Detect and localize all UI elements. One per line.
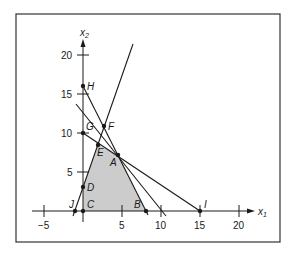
x-tick-label: 10 (155, 220, 167, 231)
label-f: F (108, 121, 115, 132)
point-i (198, 209, 202, 213)
point-b (144, 209, 148, 213)
figure-frame (16, 14, 280, 242)
label-g: G (86, 121, 94, 132)
y-tick-label: 10 (61, 128, 73, 139)
x-tick-label: 20 (233, 220, 245, 231)
x-axis-arrow-icon (247, 209, 255, 214)
x-axis-label: x1 (257, 206, 267, 218)
label-b: B (134, 199, 141, 210)
label-c: C (87, 199, 95, 210)
y-axis-label: x2 (79, 27, 89, 39)
y-axis-arrow-icon (81, 39, 86, 47)
point-d (81, 185, 85, 189)
label-a: A (109, 157, 117, 168)
point-f (102, 124, 106, 128)
y-tick-label: 15 (61, 89, 73, 100)
y-tick-label: 20 (61, 50, 73, 61)
x-tick-label: 15 (194, 220, 206, 231)
point-g (81, 131, 85, 135)
point-c (81, 209, 85, 213)
x-tick-label: −5 (38, 220, 50, 231)
label-h: H (87, 81, 95, 92)
point-h (81, 84, 85, 88)
label-j: J (68, 199, 75, 210)
label-e: E (97, 147, 104, 158)
label-d: D (87, 182, 94, 193)
label-i: I (204, 199, 207, 210)
y-tick-label: 5 (67, 167, 73, 178)
x-tick-label: 5 (119, 220, 125, 231)
lp-diagram: −5 5 10 15 20 5 10 15 20 x1 x2 A B C D E… (0, 0, 293, 254)
